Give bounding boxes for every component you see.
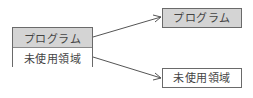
memory-stack: プログラム 未使用領域 bbox=[12, 27, 93, 67]
target-box-program: プログラム bbox=[162, 8, 242, 28]
stack-cell-program: プログラム bbox=[13, 28, 92, 47]
arrow-unused bbox=[93, 57, 161, 78]
target-box-unused-area: 未使用領域 bbox=[162, 68, 242, 88]
stack-cell-unused-area: 未使用領域 bbox=[13, 47, 92, 67]
arrow-program bbox=[93, 17, 161, 37]
